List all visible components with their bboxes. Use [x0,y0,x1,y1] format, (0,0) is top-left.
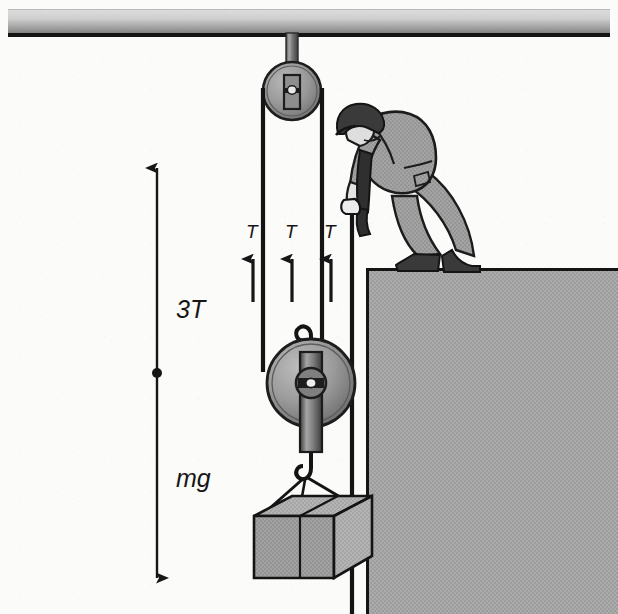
resultant-tension-label: 3T [176,297,205,322]
ceiling-beam [8,9,610,37]
tension-label-2: T [285,222,297,241]
suspended-crate [254,478,372,578]
pulley-system-illustration [0,0,618,614]
weight-label: mg [176,466,211,491]
force-origin-dot [152,368,162,378]
figure-canvas: T T T 3T mg [0,0,618,614]
fixed-pulley-assembly [263,33,321,120]
movable-pulley-assembly [267,326,355,479]
tension-label-1: T [246,222,258,241]
ledge-platform [366,268,618,614]
worker-figure [336,104,480,272]
tension-label-3: T [324,222,336,241]
